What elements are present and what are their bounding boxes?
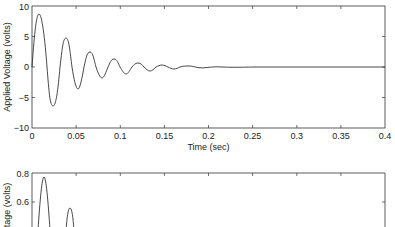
top-x-axis-label: Time (sec) xyxy=(187,142,229,152)
top-xtick-0.15: 0.15 xyxy=(156,131,174,141)
top-series-line xyxy=(32,14,385,106)
bottom-ytick-0.6: 0.6 xyxy=(16,197,29,207)
bottom-y-axis-label: tage (volts) xyxy=(2,183,12,227)
figure: 10 5 0 −5 −10 0 0.05 0.1 0.15 0.2 0.25 0… xyxy=(0,0,395,227)
top-xtick-0: 0 xyxy=(29,131,34,141)
top-y-axis-label: Applied Voltage (volts) xyxy=(2,22,12,112)
top-xtick-0.35: 0.35 xyxy=(332,131,350,141)
bottom-plot-frame xyxy=(32,173,385,227)
bottom-ytick-0.8: 0.8 xyxy=(16,169,29,179)
top-ytick-5: 5 xyxy=(24,32,29,42)
top-ytick-10: 10 xyxy=(19,2,29,12)
top-xtick-0.25: 0.25 xyxy=(244,131,262,141)
top-xtick-0.2: 0.2 xyxy=(202,131,215,141)
top-ytick-neg5: −5 xyxy=(19,93,29,103)
top-ytick-neg10: −10 xyxy=(14,123,29,133)
top-xtick-0.3: 0.3 xyxy=(291,131,304,141)
top-xtick-0.4: 0.4 xyxy=(379,131,392,141)
top-xtick-0.05: 0.05 xyxy=(67,131,85,141)
bottom-series-line xyxy=(38,177,74,227)
top-xtick-0.1: 0.1 xyxy=(114,131,127,141)
bottom-x-ticks xyxy=(76,173,341,176)
top-ytick-0: 0 xyxy=(24,62,29,72)
bottom-plot: 0.8 0.6 tage (volts) xyxy=(2,169,385,227)
top-plot: 10 5 0 −5 −10 0 0.05 0.1 0.15 0.2 0.25 0… xyxy=(2,2,391,152)
